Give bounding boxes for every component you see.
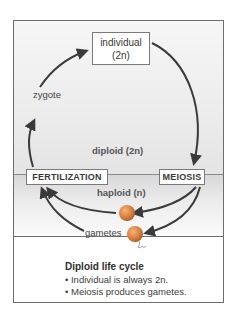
gamete-egg-1 xyxy=(119,205,135,221)
diploid-label: diploid (2n) xyxy=(92,145,143,156)
individual-ploidy: (2n) xyxy=(93,49,149,62)
caption: Diploid life cycle • Individual is alway… xyxy=(65,261,187,298)
caption-bullet-2: • Meiosis produces gametes. xyxy=(65,286,187,298)
arrow-gamete-2-to-fertilization xyxy=(42,189,84,231)
sperm-tail xyxy=(138,241,146,248)
diagram-frame: individual (2n) FERTILIZATION MEIOSIS zy… xyxy=(13,20,224,303)
caption-bullet-1: • Individual is always 2n. xyxy=(65,274,187,286)
caption-title: Diploid life cycle xyxy=(65,261,187,273)
arrow-fertilization-to-zygote xyxy=(29,121,34,167)
haploid-label: haploid (n) xyxy=(97,187,146,198)
individual-node: individual (2n) xyxy=(92,32,150,65)
fertilization-node: FERTILIZATION xyxy=(26,169,108,185)
arrow-zygote-to-individual xyxy=(40,51,86,87)
gamete-2 xyxy=(127,226,143,242)
gametes-label: gametes xyxy=(85,227,121,238)
meiosis-node: MEIOSIS xyxy=(159,169,205,185)
zygote-label: zygote xyxy=(33,89,61,100)
individual-label: individual xyxy=(93,36,149,49)
arrow-individual-to-meiosis xyxy=(152,43,198,163)
